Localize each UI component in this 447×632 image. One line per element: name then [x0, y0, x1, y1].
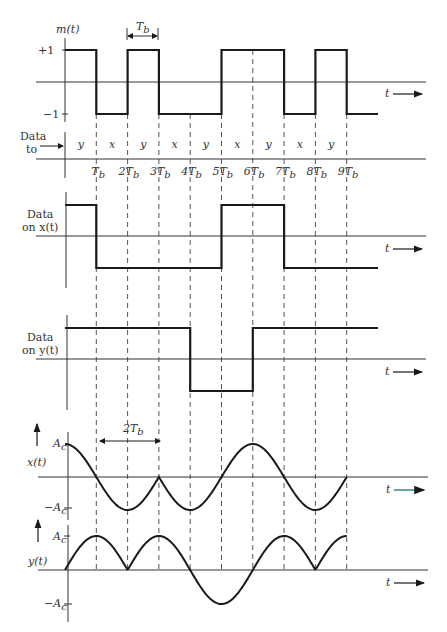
route-slot-x: x — [297, 138, 304, 151]
timing-diagram: m(t) +1 −1 Tb t Data to yxyxyxyxy Tb2Tb3… — [0, 0, 447, 632]
period-tick-labels: Tb2Tb3Tb4Tb5Tb6Tb7Tb8Tb9Tb — [91, 165, 358, 180]
ydata-t-label: t — [385, 365, 390, 378]
route-slot-x: x — [109, 138, 116, 151]
m-tick-minus: −1 — [43, 108, 59, 121]
tick-label: 2Tb — [118, 165, 140, 180]
x-tick-minus: −Ac — [44, 501, 67, 516]
route-slot-y: y — [202, 138, 210, 151]
xdata-label-line1: Data — [27, 208, 54, 221]
tick-label: 9Tb — [338, 165, 359, 180]
m-axis-label: m(t) — [56, 23, 79, 36]
tick-label: 4Tb — [180, 165, 202, 180]
m-t-label: t — [385, 87, 390, 100]
period-guide-lines — [96, 50, 346, 570]
route-slot-y: y — [77, 138, 85, 151]
tick-label: 7Tb — [275, 165, 296, 180]
route-slots: yxyxyxyxy — [77, 138, 335, 151]
panel-y: y(t) Ac −Ac t — [27, 520, 428, 622]
panel-ydata: Data on y(t) t — [22, 315, 426, 410]
ydata-label-line1: Data — [27, 331, 54, 344]
tick-label: 6Tb — [244, 165, 265, 180]
route-label-line2: to — [26, 143, 37, 156]
ydata-label-line2: on y(t) — [22, 344, 58, 357]
tick-label: 5Tb — [213, 165, 234, 180]
xdata-t-label: t — [385, 242, 390, 255]
x-tick-plus: Ac — [52, 437, 67, 452]
y-axis-label: y(t) — [27, 555, 47, 568]
x-t-label: t — [386, 483, 391, 496]
route-slot-x: x — [172, 138, 179, 151]
tb-span-label: Tb — [136, 20, 150, 35]
y-tick-plus: Ac — [52, 530, 67, 545]
route-label-line1: Data — [20, 130, 47, 143]
two-tb-span-label: 2Tb — [122, 422, 144, 437]
xdata-label-line2: on x(t) — [22, 221, 58, 234]
tick-label: 8Tb — [306, 165, 327, 180]
m-tick-plus: +1 — [38, 44, 54, 57]
route-slot-y: y — [264, 138, 272, 151]
route-slot-y: y — [139, 138, 147, 151]
x-axis-label: x(t) — [27, 456, 46, 469]
tick-label: Tb — [91, 165, 105, 180]
panel-routing: Data to yxyxyxyxy Tb2Tb3Tb4Tb5Tb6Tb7Tb8T… — [20, 130, 426, 180]
tick-label: 3Tb — [150, 165, 171, 180]
y-t-label: t — [386, 576, 391, 589]
route-slot-y: y — [327, 138, 335, 151]
panel-m: m(t) +1 −1 Tb t — [36, 20, 426, 122]
y-tick-minus: −Ac — [44, 597, 67, 612]
panel-xdata: Data on x(t) t — [22, 192, 426, 288]
route-slot-x: x — [234, 138, 241, 151]
panel-x: x(t) Ac −Ac 2Tb t — [27, 422, 428, 520]
